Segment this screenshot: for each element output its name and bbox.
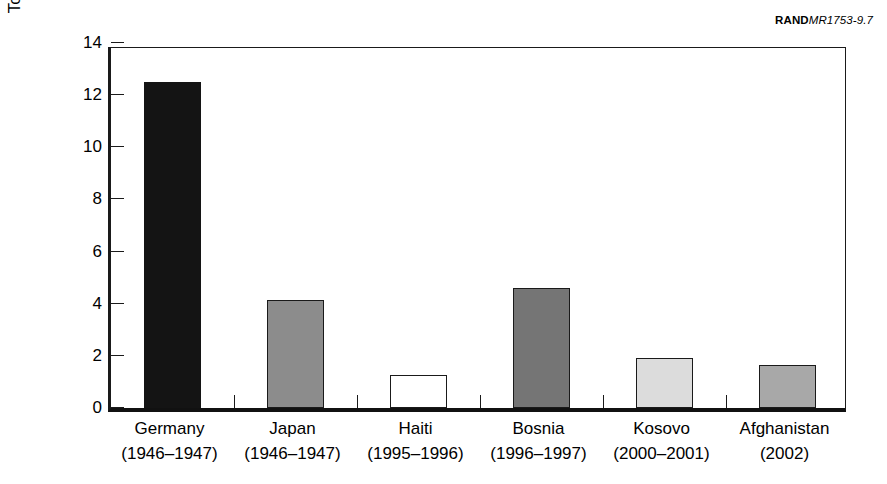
x-axis-category-labels: Germany(1946–1947)Japan(1946–1947)Haiti(… bbox=[108, 416, 846, 478]
bar-japan bbox=[267, 300, 324, 408]
y-axis-tick: 12 bbox=[111, 94, 124, 95]
rand-document-id: MR1753-9.7 bbox=[809, 14, 873, 26]
y-axis-tick: 0 bbox=[111, 407, 124, 408]
category-name: Japan bbox=[231, 416, 354, 441]
x-axis-tick bbox=[603, 395, 604, 408]
x-axis-tick bbox=[234, 395, 235, 408]
x-category-label-japan: Japan(1946–1947) bbox=[231, 416, 354, 466]
y-axis-tick-label: 10 bbox=[83, 136, 102, 157]
bar-germany bbox=[144, 82, 201, 408]
category-name: Haiti bbox=[354, 416, 477, 441]
category-period: (1946–1947) bbox=[231, 441, 354, 466]
y-axis-tick-label: 14 bbox=[83, 32, 102, 53]
bar-afghanistan bbox=[759, 365, 816, 408]
y-axis-tick: 4 bbox=[111, 303, 124, 304]
x-category-label-haiti: Haiti(1995–1996) bbox=[354, 416, 477, 466]
rand-document-credit: RANDMR1753-9.7 bbox=[775, 14, 873, 26]
bar-chart-figure: RANDMR1753-9.7 Total assistance (billion… bbox=[0, 0, 887, 484]
y-axis-tick-label: 4 bbox=[93, 293, 102, 314]
bar-haiti bbox=[390, 375, 447, 408]
category-period: (1996–1997) bbox=[477, 441, 600, 466]
category-name: Afghanistan bbox=[723, 416, 846, 441]
x-category-label-germany: Germany(1946–1947) bbox=[108, 416, 231, 466]
x-axis-tick bbox=[357, 395, 358, 408]
category-name: Bosnia bbox=[477, 416, 600, 441]
x-axis-tick bbox=[480, 395, 481, 408]
category-name: Kosovo bbox=[600, 416, 723, 441]
category-period: (2000–2001) bbox=[600, 441, 723, 466]
category-name: Germany bbox=[108, 416, 231, 441]
category-period: (2002) bbox=[723, 441, 846, 466]
y-axis-tick: 10 bbox=[111, 146, 124, 147]
x-axis-tick bbox=[726, 395, 727, 408]
x-category-label-kosovo: Kosovo(2000–2001) bbox=[600, 416, 723, 466]
bar-bosnia bbox=[513, 288, 570, 408]
y-axis-tick: 2 bbox=[111, 355, 124, 356]
y-axis-tick-label: 12 bbox=[83, 84, 102, 105]
y-axis-tick-label: 0 bbox=[93, 397, 102, 418]
category-period: (1995–1996) bbox=[354, 441, 477, 466]
rand-brand-label: RAND bbox=[775, 14, 809, 26]
y-axis-tick: 6 bbox=[111, 251, 124, 252]
bar-kosovo bbox=[636, 358, 693, 408]
y-axis-tick-label: 6 bbox=[93, 241, 102, 262]
x-category-label-afghanistan: Afghanistan(2002) bbox=[723, 416, 846, 466]
y-axis-tick-label: 8 bbox=[93, 188, 102, 209]
y-axis-tick: 8 bbox=[111, 198, 124, 199]
y-axis-title: Total assistance (billions of US$) bbox=[2, 0, 28, 73]
plot-area: 02468101214 bbox=[108, 47, 846, 412]
x-category-label-bosnia: Bosnia(1996–1997) bbox=[477, 416, 600, 466]
y-axis-tick-label: 2 bbox=[93, 345, 102, 366]
category-period: (1946–1947) bbox=[108, 441, 231, 466]
y-axis-tick: 14 bbox=[111, 42, 124, 43]
